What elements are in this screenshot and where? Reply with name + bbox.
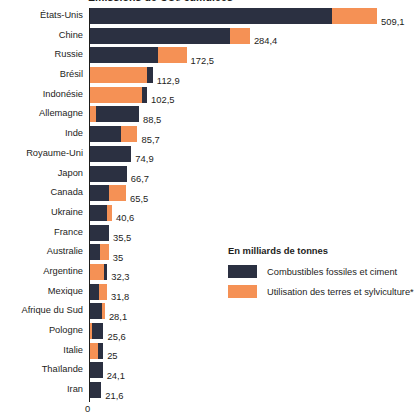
bar-total-label: 40,6: [116, 213, 134, 223]
bar-total-label: 66,7: [131, 174, 149, 184]
chart-bar-row: États-Unis509,1: [0, 8, 415, 28]
stacked-bar: [89, 323, 103, 339]
y-axis-line: [89, 8, 90, 402]
bar-total-label: 65,5: [130, 194, 148, 204]
stacked-bar: [89, 87, 147, 103]
bar-total-label: 102,5: [151, 95, 174, 105]
stacked-bar: [89, 343, 103, 359]
chart-bar-row: Italie25: [0, 343, 415, 363]
bar-category-label: Afrique du Sud: [0, 305, 83, 316]
bar-category-label: Chine: [0, 30, 83, 41]
bar-total-label: 21,6: [105, 391, 123, 401]
bar-total-label: 284,4: [254, 36, 277, 46]
bar-segment-land-use: [89, 264, 104, 280]
chart-bar-row: Japon66,7: [0, 166, 415, 186]
bar-category-label: France: [0, 227, 83, 238]
bar-category-label: Japon: [0, 168, 83, 179]
chart-bar-row: Iran21,6: [0, 382, 415, 402]
bar-segment-fossil: [89, 8, 332, 24]
bar-segment-fossil: [92, 323, 104, 339]
bar-category-label: Canada: [0, 187, 83, 198]
bar-total-label: 85,7: [141, 135, 159, 145]
bar-segment-fossil: [89, 185, 109, 201]
bar-segment-land-use: [109, 185, 126, 201]
bar-total-label: 88,5: [143, 115, 161, 125]
bar-segment-fossil: [142, 87, 147, 103]
legend-swatch-fossil: [228, 265, 257, 278]
bar-segment-land-use: [89, 67, 147, 83]
bar-category-label: Australie: [0, 246, 83, 257]
stacked-bar: [89, 264, 107, 280]
chart-title: Émissions de CO₂ cumulées: [88, 0, 233, 3]
stacked-bar: [89, 303, 105, 319]
legend-label-fossil: Combustibles fossiles et ciment: [267, 267, 397, 277]
chart-bar-row: Pologne25,6: [0, 323, 415, 343]
bar-segment-fossil: [89, 225, 109, 241]
plot-area: États-Unis509,1Chine284,4Russie172,5Brés…: [0, 8, 415, 402]
bar-total-label: 25: [107, 351, 117, 361]
bar-segment-land-use: [100, 244, 108, 260]
bar-segment-fossil: [147, 67, 153, 83]
chart-bar-row: Allemagne88,5: [0, 106, 415, 126]
bar-category-label: Inde: [0, 128, 83, 139]
stacked-bar: [89, 225, 109, 241]
bar-segment-land-use: [230, 28, 250, 44]
bar-segment-fossil: [96, 106, 139, 122]
legend-item-fossil: Combustibles fossiles et ciment: [228, 265, 413, 278]
bar-segment-land-use: [89, 87, 142, 103]
bar-category-label: États-Unis: [0, 10, 83, 21]
bar-total-label: 509,1: [381, 17, 404, 27]
bar-segment-fossil: [89, 382, 101, 398]
bar-segment-fossil: [89, 244, 100, 260]
stacked-bar: [89, 382, 101, 398]
bar-category-label: Brésil: [0, 69, 83, 80]
stacked-bar: [89, 362, 103, 378]
bar-segment-fossil: [89, 28, 230, 44]
bar-segment-fossil: [89, 47, 158, 63]
stacked-bar: [89, 106, 139, 122]
chart-legend: En milliards de tonnes Combustibles foss…: [228, 245, 413, 305]
chart-bar-row: Indonésie102,5: [0, 87, 415, 107]
bar-segment-fossil: [89, 146, 131, 162]
bar-segment-land-use: [99, 284, 107, 300]
bar-category-label: Iran: [0, 384, 83, 395]
chart-bar-row: Royaume-Uni74,9: [0, 146, 415, 166]
bar-segment-fossil: [98, 343, 103, 359]
axis-zero-label: 0: [85, 403, 90, 414]
bar-total-label: 35: [113, 253, 123, 263]
bar-segment-fossil: [89, 303, 102, 319]
stacked-bar: [89, 47, 187, 63]
bar-category-label: Indonésie: [0, 89, 83, 100]
bar-segment-fossil: [89, 166, 127, 182]
bar-segment-land-use: [332, 8, 377, 24]
legend-swatch-land: [228, 285, 257, 298]
chart-container: Émissions de CO₂ cumulées États-Unis509,…: [0, 0, 415, 414]
stacked-bar: [89, 166, 127, 182]
bar-total-label: 25,6: [107, 332, 125, 342]
stacked-bar: [89, 244, 109, 260]
chart-bar-row: Thaïlande24,1: [0, 362, 415, 382]
legend-label-land: Utilisation des terres et sylviculture*: [267, 287, 414, 297]
stacked-bar: [89, 146, 131, 162]
stacked-bar: [89, 8, 377, 24]
stacked-bar: [89, 28, 250, 44]
chart-bar-row: Chine284,4: [0, 28, 415, 48]
chart-bar-row: Afrique du Sud28,1: [0, 303, 415, 323]
bar-total-label: 172,5: [191, 56, 214, 66]
bar-segment-land-use: [121, 126, 137, 142]
bar-segment-land-use: [102, 303, 105, 319]
bar-segment-fossil: [89, 205, 107, 221]
bar-total-label: 74,9: [135, 154, 153, 164]
bar-segment-land-use: [89, 343, 98, 359]
bar-total-label: 28,1: [109, 312, 127, 322]
bar-total-label: 35,5: [113, 233, 131, 243]
bar-segment-fossil: [89, 126, 121, 142]
legend-title: En milliards de tonnes: [228, 245, 413, 256]
bar-segment-fossil: [104, 264, 107, 280]
chart-bar-row: Brésil112,9: [0, 67, 415, 87]
chart-bar-row: Russie172,5: [0, 47, 415, 67]
chart-bar-row: France35,5: [0, 225, 415, 245]
stacked-bar: [89, 126, 137, 142]
bar-segment-fossil: [89, 362, 103, 378]
chart-bar-row: Inde85,7: [0, 126, 415, 146]
